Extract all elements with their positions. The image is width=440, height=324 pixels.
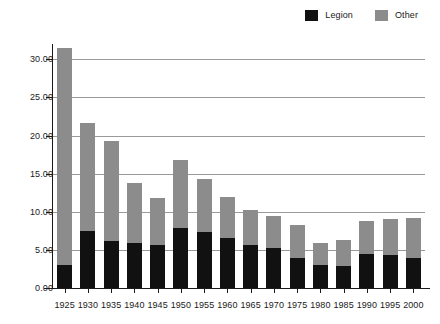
bar-stack[interactable] <box>359 44 374 288</box>
y-axis-tick: 30.00 <box>0 55 53 64</box>
bar-stack[interactable] <box>336 44 351 288</box>
bar-stack[interactable] <box>150 44 165 288</box>
bar-stack[interactable] <box>197 44 212 288</box>
x-axis-tick-mark <box>227 288 228 293</box>
bar-stack[interactable] <box>313 44 328 288</box>
x-axis-tick-mark <box>390 288 391 293</box>
bar-segment-other[interactable] <box>104 141 119 241</box>
bar-stack[interactable] <box>290 44 305 288</box>
bar-segment-legion[interactable] <box>313 265 328 288</box>
x-axis-tick-mark <box>413 288 414 293</box>
bar-segment-other[interactable] <box>243 210 258 244</box>
y-axis-tick: 0.00 <box>0 284 53 293</box>
bar-segment-other[interactable] <box>197 179 212 232</box>
bar-segment-other[interactable] <box>266 216 281 247</box>
y-axis-tick-label: 20.00 <box>9 132 53 141</box>
y-axis-tick-label: 15.00 <box>9 170 53 179</box>
x-axis-tick-mark <box>158 288 159 293</box>
x-axis-tick-mark <box>274 288 275 293</box>
bar-stack[interactable] <box>243 44 258 288</box>
y-axis-tick: 20.00 <box>0 132 53 141</box>
y-axis-tick-label: 5.00 <box>9 246 53 255</box>
bar-segment-legion[interactable] <box>80 231 95 288</box>
x-axis-tick-mark <box>111 288 112 293</box>
x-axis-tick-mark <box>65 288 66 293</box>
bar-series-container <box>53 44 425 288</box>
bar-segment-legion[interactable] <box>383 255 398 288</box>
bar-segment-other[interactable] <box>290 225 305 259</box>
bar-segment-other[interactable] <box>220 197 235 238</box>
plot-area: 0.005.0010.0015.0020.0025.0030.00 192519… <box>0 0 440 324</box>
bar-segment-other[interactable] <box>406 218 421 258</box>
x-axis-tick-mark <box>134 288 135 293</box>
bar-segment-legion[interactable] <box>220 238 235 288</box>
bar-stack[interactable] <box>127 44 142 288</box>
bar-segment-legion[interactable] <box>150 245 165 288</box>
y-axis-tick: 5.00 <box>0 246 53 255</box>
x-axis-tick-mark <box>181 288 182 293</box>
x-axis-tick-mark <box>320 288 321 293</box>
y-axis-tick: 15.00 <box>0 170 53 179</box>
bar-stack[interactable] <box>104 44 119 288</box>
bar-stack[interactable] <box>220 44 235 288</box>
bar-segment-legion[interactable] <box>197 232 212 288</box>
bar-segment-legion[interactable] <box>173 228 188 288</box>
bar-segment-other[interactable] <box>359 221 374 255</box>
bar-segment-legion[interactable] <box>243 245 258 288</box>
x-axis-line <box>44 288 430 289</box>
bar-segment-legion[interactable] <box>57 265 72 288</box>
y-axis-tick: 25.00 <box>0 93 53 102</box>
y-axis-tick-label: 10.00 <box>9 208 53 217</box>
bar-segment-other[interactable] <box>80 123 95 231</box>
x-axis-tick-mark <box>204 288 205 293</box>
x-axis-tick-mark <box>297 288 298 293</box>
bar-segment-legion[interactable] <box>104 241 119 288</box>
bar-stack[interactable] <box>266 44 281 288</box>
bar-stack[interactable] <box>406 44 421 288</box>
bar-stack[interactable] <box>383 44 398 288</box>
y-axis-tick-label: 0.00 <box>9 284 53 293</box>
bar-segment-other[interactable] <box>127 183 142 243</box>
bar-segment-other[interactable] <box>173 160 188 228</box>
y-axis-tick-label: 25.00 <box>9 93 53 102</box>
bar-segment-other[interactable] <box>383 219 398 255</box>
bar-segment-legion[interactable] <box>127 243 142 288</box>
bar-segment-legion[interactable] <box>406 258 421 289</box>
y-axis-tick: 10.00 <box>0 208 53 217</box>
bar-stack[interactable] <box>80 44 95 288</box>
bar-segment-legion[interactable] <box>290 258 305 288</box>
x-axis-tick-mark <box>344 288 345 293</box>
y-axis-tick-label: 30.00 <box>9 55 53 64</box>
x-axis-tick-mark <box>88 288 89 293</box>
bar-segment-other[interactable] <box>150 198 165 245</box>
bar-segment-legion[interactable] <box>336 266 351 288</box>
x-axis-tick-mark <box>251 288 252 293</box>
bar-segment-other[interactable] <box>57 48 72 265</box>
bar-segment-other[interactable] <box>336 240 351 266</box>
x-axis-tick-label: 2000 <box>399 300 427 310</box>
bar-segment-legion[interactable] <box>359 254 374 288</box>
bar-stack[interactable] <box>173 44 188 288</box>
stacked-bar-chart: Legion Other 0.005.0010.0015.0020.0025.0… <box>0 0 440 324</box>
x-axis-tick-mark <box>367 288 368 293</box>
bar-segment-other[interactable] <box>313 243 328 265</box>
bar-segment-legion[interactable] <box>266 248 281 288</box>
bar-stack[interactable] <box>57 44 72 288</box>
